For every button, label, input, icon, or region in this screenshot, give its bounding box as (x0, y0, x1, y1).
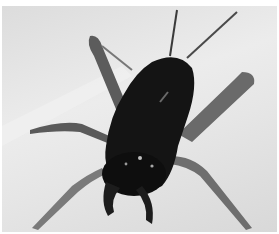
antenna-right (187, 12, 237, 58)
rear-leg-left (32, 168, 106, 230)
rear-leg-right (170, 156, 252, 230)
cricket-illustration (2, 6, 277, 232)
antenna-left (170, 10, 177, 56)
cricket-photo: Black-and-white close-up photograph of a… (2, 6, 277, 232)
middle-leg-left (30, 123, 114, 144)
cercus-left (103, 182, 120, 216)
